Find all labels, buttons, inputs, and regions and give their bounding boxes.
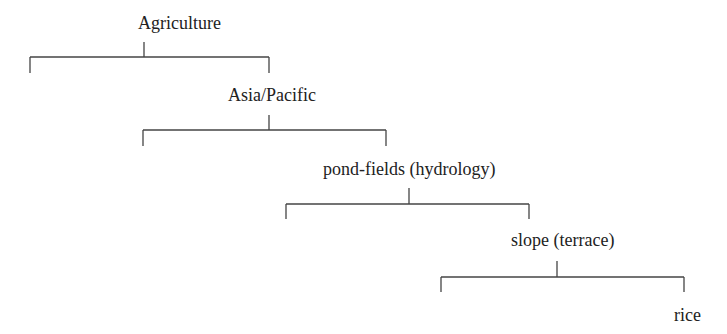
bracket-agriculture — [30, 42, 269, 73]
hierarchy-diagram: Agriculture Asia/Pacific pond-fields (hy… — [0, 0, 727, 334]
bracket-pond-fields — [286, 188, 529, 219]
bracket-slope — [441, 261, 684, 292]
node-agriculture: Agriculture — [138, 14, 221, 32]
bracket-asia-pacific — [143, 115, 386, 146]
node-asia-pacific: Asia/Pacific — [228, 86, 316, 104]
node-pond-fields: pond-fields (hydrology) — [323, 160, 495, 178]
node-slope: slope (terrace) — [511, 231, 614, 249]
node-rice: rice — [674, 306, 701, 324]
